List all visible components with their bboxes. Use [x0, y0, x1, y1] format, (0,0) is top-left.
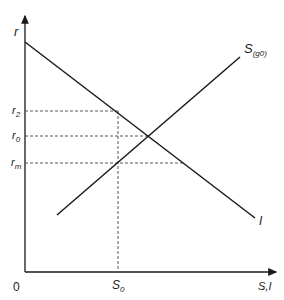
- s0-label: S0: [112, 278, 125, 294]
- saving-curve: [57, 57, 240, 215]
- y-axis-label: r: [14, 24, 19, 39]
- origin-label: 0: [13, 280, 20, 294]
- rm-label: rm: [11, 156, 22, 171]
- rm-label-sub: m: [15, 162, 22, 171]
- investment-curve-label: I: [259, 214, 263, 228]
- loanable-funds-diagram: r S,I 0 S(g0) I r2 r0 rm S0: [0, 0, 284, 300]
- investment-curve: [25, 42, 255, 218]
- s0-label-base: S: [112, 278, 120, 292]
- saving-curve-label: S(g0): [244, 41, 267, 58]
- saving-curve-label-base: S: [244, 41, 253, 56]
- x-axis-label: S,I: [258, 280, 271, 292]
- r0-label-sub: 0: [16, 135, 21, 144]
- s0-label-sub: 0: [120, 285, 125, 294]
- r2-label-sub: 2: [15, 110, 21, 119]
- r2-label: r2: [12, 104, 21, 119]
- r0-label: r0: [12, 129, 21, 144]
- saving-curve-label-sub: (g0): [253, 49, 268, 58]
